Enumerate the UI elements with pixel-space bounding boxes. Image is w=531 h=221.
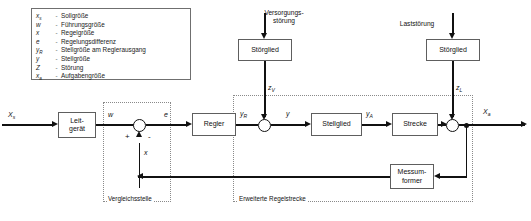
ya-line — [362, 124, 388, 126]
legend-text: Sollgröße — [61, 12, 88, 21]
legend-row: xs - Sollgröße — [36, 12, 190, 21]
legend-text: Regelungsdifferenz — [61, 38, 116, 47]
legend-text: Führungsgröße — [61, 21, 105, 30]
sum1-minus-sign: - — [148, 133, 151, 141]
regler-block: Regler — [192, 113, 236, 136]
laststoerung-line — [452, 13, 454, 35]
legend-text: Störung — [61, 64, 83, 73]
stoerglied-last-block: Störglied — [426, 39, 480, 61]
zv-line — [264, 61, 266, 117]
legend-dash: - — [52, 64, 61, 73]
signal-yr-label: yR — [240, 110, 247, 119]
legend-row: w - Führungsgröße — [36, 21, 190, 30]
legend-text: Stellgröße am Reglerausgang — [61, 46, 146, 55]
legend-dash: - — [52, 55, 61, 64]
messumformer-in-arrowhead — [434, 173, 440, 179]
legend-row: x - Regelgröße — [36, 29, 190, 38]
versorgungsstoerung-line — [264, 13, 266, 35]
legend-symbol: xa — [36, 72, 52, 84]
summing-junction-last — [446, 119, 459, 132]
legend-dash: - — [52, 46, 61, 55]
xa-arrowhead — [521, 121, 527, 127]
legend-row: xa - Aufgabengröße — [36, 72, 190, 81]
legend-row: e - Regelungsdifferenz — [36, 38, 190, 47]
messumformer-block: Messum-former — [390, 164, 434, 189]
vergleichsstelle-label: Vergleichsstelle — [107, 195, 153, 202]
zl-line — [452, 61, 454, 117]
xs-line — [2, 124, 54, 126]
legend-row: y - Stellgröße — [36, 55, 190, 64]
leitgeraet-label: Leit-gerät — [69, 117, 85, 134]
leitgeraet-block: Leit-gerät — [58, 112, 96, 138]
x-feedback-vertical — [139, 143, 141, 188]
versorgungsstoerung-caption: Versorgungs-störung — [247, 9, 321, 25]
block-diagram-canvas: xs - Sollgröße w - Führungsgröße x - Reg… — [0, 0, 531, 221]
signal-xs-label: Xs — [8, 111, 15, 120]
erweiterte-regelstrecke-region — [233, 95, 473, 202]
symbol-legend: xs - Sollgröße w - Führungsgröße x - Reg… — [31, 8, 191, 80]
e-line — [146, 124, 188, 126]
feedback-vertical-right — [466, 125, 468, 177]
legend-dash: - — [52, 38, 61, 47]
legend-row: yR - Stellgröße am Reglerausgang — [36, 46, 190, 55]
sum1-plus-sign: + — [125, 133, 130, 141]
summing-junction-vergleichsstelle — [133, 119, 146, 132]
legend-dash: - — [52, 29, 61, 38]
legend-text: Regelgröße — [61, 29, 94, 38]
legend-row: Z - Störung — [36, 64, 190, 73]
summing-junction-versorgung — [258, 119, 271, 132]
messumformer-label: Messum-former — [398, 168, 427, 185]
stoerglied-versorgung-block: Störglied — [238, 39, 292, 61]
feedback-horizontal-to-messumformer — [440, 176, 467, 178]
signal-e-label: e — [164, 111, 168, 118]
legend-text: Stellgröße — [61, 55, 90, 64]
laststoerung-caption: Laststörung — [388, 20, 446, 28]
legend-dash: - — [52, 12, 61, 21]
legend-text: Aufgabengröße — [61, 72, 105, 81]
erweiterte-regelstrecke-label: Erweiterte Regelstrecke — [238, 195, 307, 202]
legend-dash: - — [52, 21, 61, 30]
signal-w-label: w — [108, 111, 113, 118]
x-feedback-arrowhead — [136, 131, 142, 137]
w-line — [96, 124, 134, 126]
legend-dash: - — [52, 72, 61, 81]
yr-line — [236, 124, 258, 126]
signal-ya-label: yA — [366, 110, 373, 119]
signal-zv-label: zV — [268, 84, 275, 93]
signal-zl-label: zL — [456, 84, 462, 93]
signal-xa-label: Xa — [483, 108, 490, 117]
signal-x-label: x — [144, 149, 148, 156]
feedback-left-arrowhead — [137, 173, 143, 179]
signal-y-label: y — [286, 110, 290, 117]
vergleichsstelle-region — [103, 102, 171, 202]
strecke-block: Strecke — [392, 113, 438, 136]
feedback-horizontal-long — [138, 176, 390, 178]
stellglied-block: Stellglied — [311, 113, 362, 136]
y-line — [271, 124, 307, 126]
